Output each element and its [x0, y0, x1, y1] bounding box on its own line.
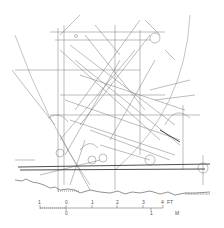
scale-bar	[40, 205, 163, 211]
scale-m-label-1: 1	[150, 211, 153, 216]
scale-ft-label-1neg: 1	[38, 200, 41, 205]
heavy-lines	[18, 130, 210, 170]
scale-ft-unit: FT	[167, 200, 173, 205]
line-drawing	[0, 0, 224, 228]
scale-ft-label-4: 4	[161, 200, 164, 205]
scale-ft-label-2: 2	[116, 200, 119, 205]
scale-ft-label-1: 1	[91, 200, 94, 205]
ground-profile	[15, 179, 210, 195]
scale-m-unit: M	[175, 211, 179, 216]
scale-ft-label-3: 3	[142, 200, 145, 205]
scale-ft-label-0: 0	[65, 200, 68, 205]
scale-m-label-0: 0	[65, 211, 68, 216]
